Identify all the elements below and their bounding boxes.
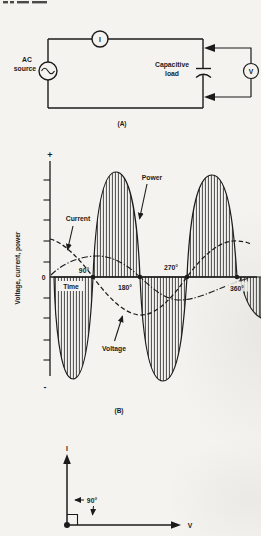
textbook-figure-page: I V AC source Capacitive load (A)	[0, 0, 261, 536]
power-lobe-negative-2	[140, 277, 187, 381]
probe-arrow-bottom-icon	[204, 93, 215, 101]
current-arrow	[68, 226, 74, 250]
ammeter-label: I	[99, 36, 101, 43]
ac-source-label-line2: source	[14, 65, 37, 72]
angle-arrow-to-v	[93, 506, 94, 515]
tick-270deg: 270°	[164, 264, 178, 271]
ac-source-label-line1: AC	[22, 56, 32, 63]
panel-b-caption: (B)	[114, 407, 123, 415]
figure-canvas: I V AC source Capacitive load (A)	[0, 0, 261, 536]
minus-sign: -	[44, 382, 47, 392]
y-axis-label: Voltage, current, power	[14, 231, 22, 304]
tick-90deg: 90°	[79, 267, 90, 274]
y-axis-ticks	[44, 180, 51, 360]
power-arrow	[140, 184, 148, 219]
phasor-angle-label: 90°	[87, 497, 98, 504]
phasor-v-label: V	[188, 522, 193, 529]
phasor-origin-dot	[64, 522, 70, 528]
panel-a-caption: (A)	[117, 120, 126, 128]
current-label: Current	[66, 215, 91, 222]
capacitive-load-label-line2: load	[165, 70, 179, 77]
probe-arrow-top-icon	[204, 44, 215, 52]
voltage-arrow	[115, 316, 123, 341]
cutoff-text-fragment	[3, 1, 47, 3]
voltage-label: Voltage	[102, 345, 126, 353]
zero-label: 0	[42, 274, 46, 281]
tick-360deg: 360°	[230, 285, 244, 292]
time-label: Time	[63, 283, 79, 290]
circuit-diagram	[39, 31, 259, 108]
phasor-diagram: I V 90°	[63, 445, 193, 529]
power-label: Power	[142, 174, 163, 181]
tick-180deg: 180°	[118, 284, 132, 291]
waveform-chart: + - 0 Voltage, current, power Time 90° 1…	[14, 150, 261, 415]
i-arrowhead-icon	[63, 454, 71, 464]
power-lobe-positive-2	[187, 175, 237, 277]
phasor-i-label: I	[66, 445, 68, 452]
power-lobe-positive-1	[93, 172, 140, 277]
capacitive-load-label-line1: Capacitive	[155, 61, 189, 69]
plus-sign: +	[47, 150, 52, 160]
v-arrowhead-icon	[171, 521, 181, 529]
power-lobe-negative-1	[54, 277, 93, 379]
voltmeter-label: V	[249, 68, 254, 75]
